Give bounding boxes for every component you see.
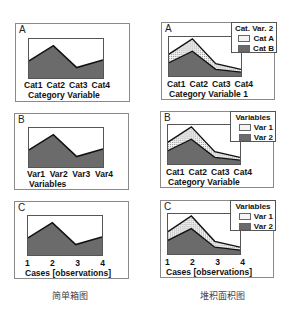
legend-item: Var 2	[233, 133, 273, 142]
tick: Cat1	[167, 80, 185, 89]
tick: Cat1	[166, 168, 184, 177]
x-tick-labels: Var1 Var2 Var3 Var4	[27, 170, 113, 179]
dark-swatch-icon	[238, 45, 250, 52]
plot-area	[27, 215, 103, 256]
panel-letter: A	[19, 25, 26, 35]
dark-swatch-icon	[239, 134, 251, 141]
plot-area	[28, 127, 104, 168]
x-tick-labels: 1 2 3 4	[25, 259, 105, 268]
legend: Variables Var 1 Var 2	[230, 200, 276, 231]
tick: 1	[25, 259, 30, 268]
dotted-swatch-icon	[238, 35, 250, 42]
stacked-area-panel-a: A Cat. Var. 2 Cat A Cat B Cat1 Cat2 Cat3	[161, 22, 275, 100]
x-tick-labels: Cat1 Cat2 Cat3 Cat4	[167, 80, 253, 89]
legend-item: Var 1	[233, 212, 273, 221]
tick: 1	[165, 258, 170, 267]
legend: Cat. Var. 2 Cat A Cat B	[231, 22, 277, 53]
legend-item: Var 2	[233, 222, 273, 231]
panel-letter: B	[18, 115, 25, 125]
tick: 2	[190, 258, 195, 267]
tick: Var3	[72, 170, 90, 179]
panel-letter: A	[165, 24, 172, 34]
legend-title: Variables	[233, 113, 273, 122]
x-axis-label: Category Variable	[168, 178, 240, 187]
dotted-swatch-icon	[239, 213, 251, 220]
tick: Var4	[95, 170, 113, 179]
legend-item: Cat A	[234, 34, 274, 43]
panel-letter: B	[164, 113, 171, 123]
tick: Cat3	[211, 168, 229, 177]
area-chart	[29, 39, 103, 78]
plot-area	[28, 38, 104, 79]
area-chart	[29, 128, 103, 167]
stacked-area-panel-b: B Variables Var 1 Var 2 Cat1 Cat2 Cat3	[160, 111, 274, 188]
x-tick-labels: 1 2 3 4	[165, 258, 245, 267]
tick: Cat4	[234, 168, 252, 177]
tick: Cat2	[190, 80, 208, 89]
tick: 3	[75, 259, 80, 268]
tick: 4	[240, 258, 245, 267]
tick: Var1	[27, 170, 45, 179]
tick: Cat2	[47, 81, 65, 90]
x-axis-label: Cases [observations]	[25, 269, 111, 278]
legend-item: Cat B	[234, 44, 274, 53]
tick: Cat3	[212, 80, 230, 89]
stacked-area-panel-c: C Variables Var 1 Var 2 1 2 3 4 C	[160, 200, 274, 278]
legend: Variables Var 1 Var 2	[230, 111, 276, 142]
x-tick-labels: Cat1 Cat2 Cat3 Cat4	[166, 168, 252, 177]
x-axis-label: Category Variable 1	[169, 90, 248, 99]
tick: Cat1	[24, 81, 42, 90]
tick: Var2	[50, 170, 68, 179]
tick: Cat2	[189, 168, 207, 177]
simple-area-panel-c: C 1 2 3 4 Cases [observations]	[14, 201, 129, 279]
right-column-caption: 堆积面积图	[186, 289, 258, 302]
tick: 4	[100, 259, 105, 268]
panel-letter: C	[18, 203, 25, 213]
legend-item: Var 1	[233, 123, 273, 132]
tick: Cat4	[92, 81, 110, 90]
legend-title: Variables	[233, 202, 273, 211]
area-chart	[28, 216, 102, 255]
tick: Cat3	[69, 81, 87, 90]
tick: 2	[50, 259, 55, 268]
simple-area-panel-b: B Var1 Var2 Var3 Var4 Variables	[14, 113, 129, 190]
dotted-swatch-icon	[239, 124, 251, 131]
dark-swatch-icon	[239, 223, 251, 230]
x-tick-labels: Cat1 Cat2 Cat3 Cat4	[24, 81, 110, 90]
x-axis-label: Variables	[29, 180, 66, 189]
tick: 3	[215, 258, 220, 267]
left-column-caption: 简单箱图	[40, 289, 100, 302]
legend-title: Cat. Var. 2	[234, 24, 274, 33]
panel-letter: C	[164, 202, 171, 212]
x-axis-label: Cases [observations]	[166, 268, 252, 277]
simple-area-panel-a: A Cat1 Cat2 Cat3 Cat4 Category Variable	[15, 23, 130, 102]
tick: Cat4	[235, 80, 253, 89]
x-axis-label: Category Variable	[28, 91, 100, 100]
